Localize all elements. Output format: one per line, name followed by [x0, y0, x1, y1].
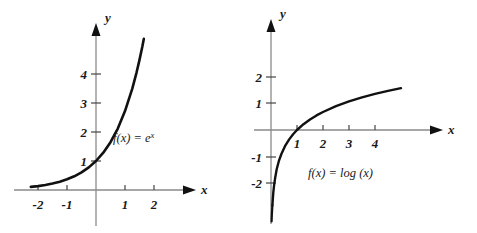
exponential-curve	[31, 39, 144, 187]
y-tick-label-right-2: 2	[255, 70, 263, 85]
x-axis-label-right: x	[447, 122, 455, 137]
y-axis-label-left: y	[103, 10, 111, 25]
plot-logarithm: 1 2 3 4 2 1 -1 -2 x y f(x) = log (x)	[251, 6, 455, 224]
y-tick-label-left-1: 1	[81, 154, 88, 169]
x-tick-label-right-4: 4	[371, 136, 379, 151]
y-axis-arrow-right	[267, 19, 276, 32]
x-axis-arrow-right	[430, 126, 443, 135]
y-tick-label-right-neg1: -1	[251, 150, 262, 165]
exponential-function-label-text: f(x) = e	[113, 131, 151, 145]
exponential-function-label-exponent: x	[150, 130, 155, 140]
logarithm-function-label: f(x) = log (x)	[308, 166, 373, 180]
y-tick-label-right-1: 1	[256, 96, 263, 111]
plot-exponential: -2 -1 1 2 1 2 3 4 x y f(x) = ex	[14, 10, 208, 226]
logarithm-curve	[272, 88, 401, 205]
x-tick-label-right-2: 2	[319, 136, 327, 151]
x-axis-arrow-left	[183, 186, 196, 195]
y-axis-label-right: y	[278, 6, 286, 21]
x-tick-label-left-neg2: -2	[33, 197, 44, 212]
x-tick-label-left-neg1: -1	[62, 197, 73, 212]
x-tick-label-right-1: 1	[294, 136, 301, 151]
y-tick-label-right-neg2: -2	[251, 176, 262, 191]
y-tick-label-left-3: 3	[80, 96, 88, 111]
y-tick-label-left-2: 2	[80, 125, 88, 140]
x-tick-label-right-3: 3	[345, 136, 353, 151]
x-tick-label-left-2: 2	[150, 197, 158, 212]
figure-canvas: -2 -1 1 2 1 2 3 4 x y f(x) = ex	[0, 0, 477, 233]
x-axis-label-left: x	[200, 182, 208, 197]
logarithm-curve-asymptote-tail	[272, 205, 273, 221]
x-tick-label-left-1: 1	[122, 197, 129, 212]
y-tick-label-left-4: 4	[80, 67, 88, 82]
y-axis-arrow-left	[92, 23, 101, 36]
dual-function-plot: -2 -1 1 2 1 2 3 4 x y f(x) = ex	[0, 0, 477, 233]
exponential-function-label: f(x) = ex	[113, 130, 155, 146]
